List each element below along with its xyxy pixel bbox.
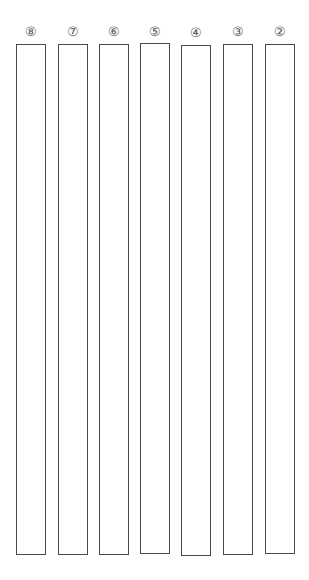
writing-sheet: ⑧ ⑦ ⑥ ⑤ ④ ③ ② [0,0,309,580]
column-label: ⑤ [140,25,170,39]
column-label: ④ [181,26,211,40]
writing-box[interactable] [265,44,295,554]
column-label: ③ [223,25,253,39]
writing-box[interactable] [99,44,129,555]
column-label: ⑥ [99,25,129,39]
column-label: ⑦ [58,25,88,39]
writing-box[interactable] [140,43,170,554]
writing-box[interactable] [223,44,253,555]
writing-box[interactable] [181,45,211,556]
writing-box[interactable] [58,44,88,555]
writing-box[interactable] [16,44,46,555]
column-label: ② [265,25,295,39]
column-label: ⑧ [16,25,46,39]
